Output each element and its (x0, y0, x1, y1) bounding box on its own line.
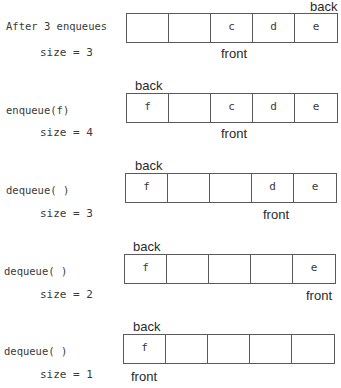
array-cell (210, 174, 252, 202)
front-pointer-label: front (306, 288, 332, 303)
array-cell: f (124, 335, 166, 363)
array-cell: e (293, 255, 335, 283)
operation-label: enqueue(f) (6, 104, 69, 116)
size-label: size = 3 (40, 207, 93, 220)
queue-array: f c d e (126, 93, 338, 123)
front-pointer-label: front (131, 369, 157, 384)
back-pointer-label: back (133, 239, 160, 254)
array-cell (251, 255, 293, 283)
array-cell: f (126, 174, 168, 202)
array-cell (168, 174, 210, 202)
array-cell (166, 335, 208, 363)
queue-array: f (123, 334, 335, 364)
array-cell: d (253, 94, 295, 122)
array-cell: d (253, 14, 295, 42)
array-cell: e (295, 94, 337, 122)
size-label: size = 3 (40, 46, 93, 59)
array-cell: e (295, 14, 337, 42)
array-cell (169, 14, 211, 42)
front-pointer-label: front (221, 46, 247, 61)
array-cell: f (125, 255, 167, 283)
queue-array: f d e (125, 173, 337, 203)
operation-label: dequeue( ) (4, 345, 67, 357)
front-pointer-label: front (221, 126, 247, 141)
size-label: size = 1 (40, 368, 93, 381)
operation-label: After 3 enqueues (6, 20, 107, 32)
size-label: size = 4 (40, 126, 93, 139)
array-cell (292, 335, 334, 363)
array-cell (169, 94, 211, 122)
back-pointer-label: back (310, 0, 337, 14)
queue-array: c d e (126, 13, 338, 43)
array-cell (167, 255, 209, 283)
array-cell (127, 14, 169, 42)
array-cell: f (127, 94, 169, 122)
size-label: size = 2 (40, 288, 93, 301)
array-cell: e (294, 174, 336, 202)
operation-label: dequeue( ) (6, 184, 69, 196)
operation-label: dequeue( ) (4, 265, 67, 277)
queue-array: f e (124, 254, 336, 284)
array-cell (208, 335, 250, 363)
array-cell: c (211, 14, 253, 42)
array-cell (250, 335, 292, 363)
array-cell (209, 255, 251, 283)
back-pointer-label: back (133, 319, 160, 334)
array-cell: d (252, 174, 294, 202)
back-pointer-label: back (135, 78, 162, 93)
front-pointer-label: front (263, 207, 289, 222)
array-cell: c (211, 94, 253, 122)
back-pointer-label: back (135, 158, 162, 173)
